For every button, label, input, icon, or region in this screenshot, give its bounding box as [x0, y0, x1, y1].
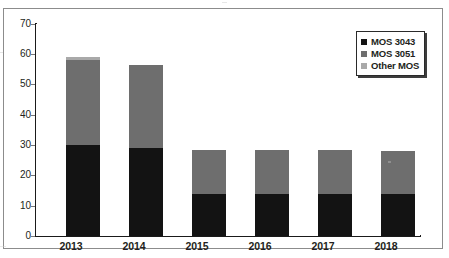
bar-2016[interactable]: [255, 150, 289, 236]
bar-2018-mos-3051[interactable]: [381, 151, 415, 194]
y-tick-label-50: 50: [7, 79, 31, 89]
bar-2018-mos-3043[interactable]: [381, 194, 415, 236]
bar-2017[interactable]: [318, 150, 352, 236]
legend-swatch-icon-mos-3051: [361, 51, 367, 57]
y-tick-label-40: 40: [7, 110, 31, 120]
x-tick-label-2016: 2016: [238, 240, 282, 252]
bar-2018[interactable]: [381, 151, 415, 236]
chart-legend[interactable]: MOS 3043 MOS 3051 Other MOS: [356, 31, 425, 76]
bar-2013[interactable]: [66, 57, 100, 236]
bar-2015-mos-3043[interactable]: [192, 194, 226, 236]
scan-artifact: [0, 52, 3, 53]
legend-item-mos-3043[interactable]: MOS 3043: [361, 36, 419, 47]
y-tick-label-20: 20: [7, 170, 31, 180]
bar-2014[interactable]: [129, 65, 163, 236]
y-tick-label-60: 60: [7, 49, 31, 59]
bar-2016-mos-3051[interactable]: [255, 150, 289, 194]
x-tick-label-2015: 2015: [175, 240, 219, 252]
scan-artifact: [0, 246, 6, 247]
y-tick-label-10: 10: [7, 201, 31, 211]
y-tick-label-30: 30: [7, 140, 31, 150]
bar-2016-mos-3043[interactable]: [255, 194, 289, 236]
chart-figure: 70 60 50 40 30 20 10 0: [0, 0, 449, 258]
x-tick-label-2018: 2018: [364, 240, 408, 252]
y-tick-label-0: 0: [7, 231, 31, 241]
legend-label-mos-3043: MOS 3043: [371, 37, 415, 47]
legend-swatch-icon-mos-3043: [361, 39, 367, 45]
bar-2015-mos-3051[interactable]: [192, 150, 226, 194]
x-tick-label-2013: 2013: [49, 240, 93, 252]
scan-artifact: [222, 2, 227, 3]
scan-artifact: [388, 161, 391, 163]
bar-2017-mos-3051[interactable]: [318, 150, 352, 194]
bar-2015[interactable]: [192, 150, 226, 236]
bar-2014-mos-3051[interactable]: [129, 65, 163, 148]
legend-label-mos-3051: MOS 3051: [371, 49, 415, 59]
y-axis-labels: 70 60 50 40 30 20 10 0: [4, 9, 31, 250]
chart-frame: 70 60 50 40 30 20 10 0: [3, 8, 443, 249]
legend-label-other-mos: Other MOS: [371, 61, 419, 71]
bar-2013-mos-3051[interactable]: [66, 60, 100, 145]
x-tick-label-2014: 2014: [112, 240, 156, 252]
legend-item-other-mos[interactable]: Other MOS: [361, 60, 419, 71]
bar-2013-mos-3043[interactable]: [66, 145, 100, 236]
y-tick-label-70: 70: [7, 19, 31, 29]
legend-item-mos-3051[interactable]: MOS 3051: [361, 48, 419, 59]
x-tick-label-2017: 2017: [301, 240, 345, 252]
bar-2017-mos-3043[interactable]: [318, 194, 352, 236]
bar-2014-mos-3043[interactable]: [129, 148, 163, 236]
legend-swatch-icon-other-mos: [361, 63, 367, 69]
